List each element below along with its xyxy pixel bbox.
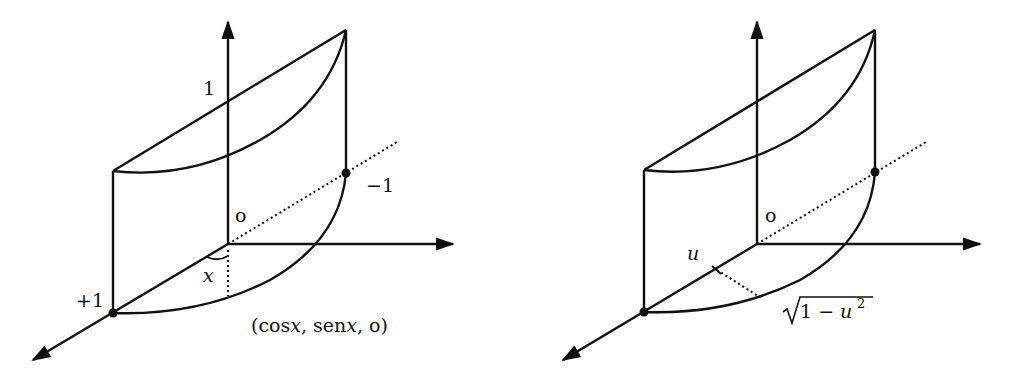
angle-arc	[207, 256, 228, 259]
x-axis-back-dotted	[757, 142, 926, 244]
angle-label: x	[203, 264, 214, 286]
z-tick-label: 1	[203, 77, 215, 99]
sqrt-body: 1 − u	[800, 300, 852, 322]
right-figure	[563, 22, 980, 360]
point-plus-one	[109, 309, 118, 318]
origin-label: o	[235, 204, 246, 226]
point-back	[871, 168, 880, 177]
minus-one-label: −1	[366, 174, 394, 196]
x-axis	[563, 244, 757, 360]
x-axis	[33, 244, 228, 360]
point-minus-one	[342, 169, 351, 178]
plus-one-label: +1	[76, 289, 104, 311]
sqrt-expression: 1 − u 2	[783, 296, 873, 323]
u-label: u	[687, 242, 699, 264]
chord-dotted	[717, 270, 758, 296]
point-coordinate-label: (cosx, senx, o)	[251, 314, 388, 336]
origin-label: o	[765, 204, 776, 226]
sqrt-exponent: 2	[857, 296, 865, 311]
point-front	[640, 308, 649, 317]
